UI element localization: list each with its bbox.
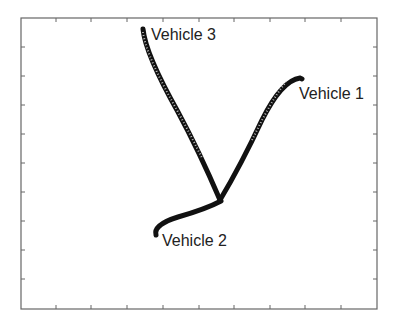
label-vehicle-1: Vehicle 1 [299,85,364,102]
vehicle-2-trajectory [156,201,221,235]
label-vehicle-3: Vehicle 3 [151,26,216,43]
trajectory-chart: Vehicle 3 Vehicle 1 Vehicle 2 [0,0,396,334]
vehicle-3-trajectory [143,29,220,200]
label-vehicle-2: Vehicle 2 [162,232,227,249]
vehicle-1-trajectory [220,78,302,200]
plot-frame [21,18,377,309]
